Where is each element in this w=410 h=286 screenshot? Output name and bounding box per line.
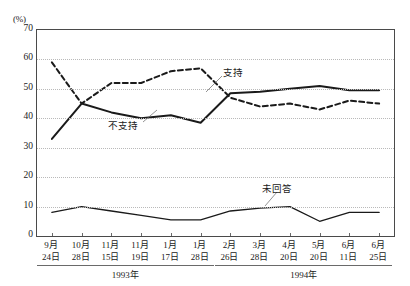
year-label: 1993年 (37, 268, 214, 281)
x-label-day: 25日 (358, 252, 398, 264)
series-label-noanswer: 未回答 (262, 181, 292, 195)
line-chart: (%) 010203040506070 支持 不支持 未回答 9月24日10月2… (0, 0, 410, 286)
year-group-1994: 1994年 (215, 265, 392, 285)
series-label-nonsupport: 不支持 (108, 118, 138, 132)
year-rule (37, 265, 214, 266)
x-tick-label: 6月25日 (358, 240, 398, 263)
x-label-month: 6月 (358, 240, 398, 252)
series-label-support: 支持 (223, 65, 243, 79)
year-rule (215, 265, 392, 266)
year-label: 1994年 (215, 268, 392, 281)
year-group-1993: 1993年 (37, 265, 214, 285)
